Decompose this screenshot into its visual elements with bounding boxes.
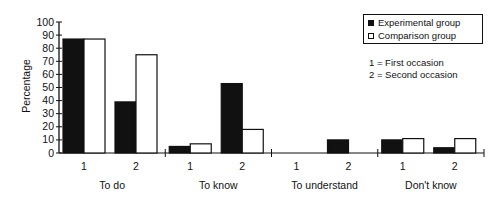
x-tick-label: 1 — [81, 160, 87, 172]
bar — [455, 139, 476, 153]
y-tick-label: 10 — [42, 133, 54, 145]
group-label: To do — [99, 179, 125, 191]
bar — [136, 55, 157, 153]
group-label: Don't know — [405, 179, 457, 191]
bar — [403, 139, 424, 153]
note-second-occasion: 2 = Second occasion — [369, 69, 457, 80]
bar — [382, 140, 403, 153]
y-tick-label: 30 — [42, 107, 54, 119]
x-tick-label: 2 — [346, 160, 352, 172]
y-tick-label: 0 — [48, 147, 54, 159]
bar — [63, 39, 84, 153]
x-tick-label: 2 — [239, 160, 245, 172]
y-axis-label: Percentage — [20, 56, 32, 116]
bar — [190, 144, 211, 153]
note-first-occasion: 1 = First occasion — [369, 57, 444, 68]
x-tick-label: 1 — [400, 160, 406, 172]
black-swatch-icon — [368, 20, 374, 26]
legend-label: Comparison group — [378, 29, 456, 42]
bar — [84, 39, 105, 153]
group-label: To know — [199, 179, 238, 191]
group-label: To understand — [291, 179, 358, 191]
bar — [434, 148, 455, 153]
legend-label: Experimental group — [378, 16, 460, 29]
bar — [242, 129, 263, 153]
x-tick-label: 2 — [133, 160, 139, 172]
x-tick-label: 2 — [452, 160, 458, 172]
legend: Experimental group Comparison group — [363, 14, 483, 44]
y-tick-label: 50 — [42, 81, 54, 93]
y-tick-label: 60 — [42, 68, 54, 80]
bar — [221, 84, 242, 153]
y-tick-label: 90 — [42, 29, 54, 41]
bar — [328, 140, 349, 153]
y-tick-label: 100 — [36, 16, 54, 28]
x-tick-label: 1 — [187, 160, 193, 172]
bar — [115, 102, 136, 153]
white-swatch-icon — [368, 33, 374, 39]
y-tick-label: 20 — [42, 120, 54, 132]
legend-item-experimental: Experimental group — [368, 16, 478, 29]
y-tick-label: 40 — [42, 94, 54, 106]
bar — [169, 146, 190, 153]
x-tick-label: 1 — [294, 160, 300, 172]
y-tick-label: 70 — [42, 55, 54, 67]
y-tick-label: 80 — [42, 42, 54, 54]
legend-item-comparison: Comparison group — [368, 29, 478, 42]
